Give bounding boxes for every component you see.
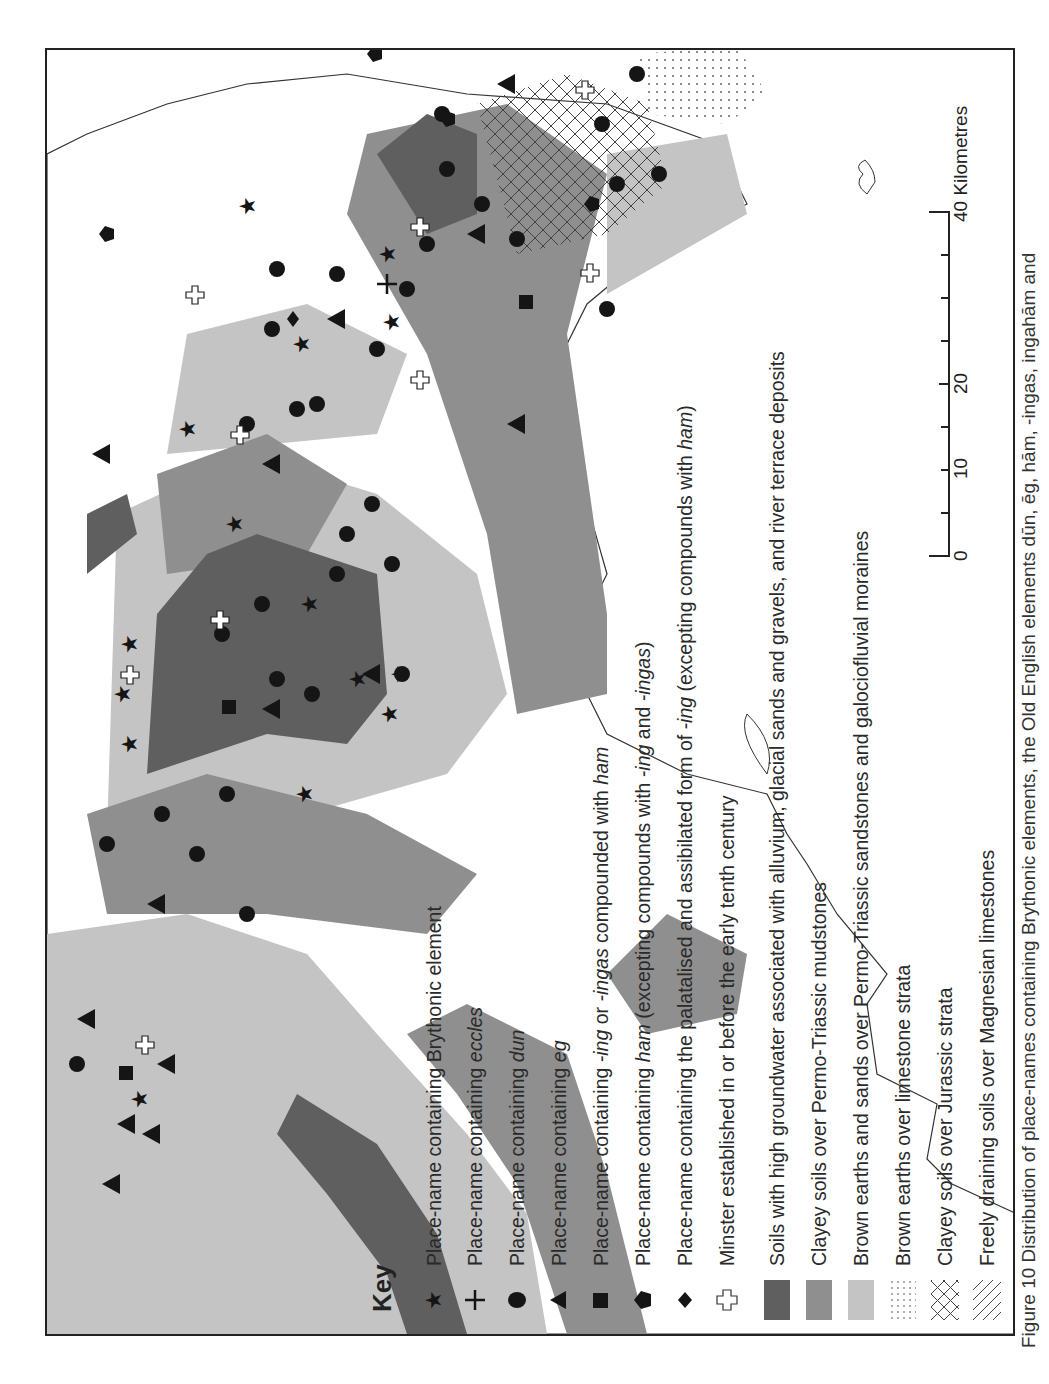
svg-text:★: ★: [297, 594, 322, 614]
svg-text:★: ★: [175, 419, 200, 439]
svg-text:★: ★: [289, 334, 314, 354]
dotted-swatch: [890, 1280, 916, 1320]
diagonal-hatch-swatch: [973, 1280, 1001, 1320]
svg-text:★: ★: [110, 684, 135, 704]
square-icon: [587, 1280, 615, 1320]
legend-item-ham: Place-name containing ham (excepting com…: [628, 642, 658, 1320]
legend-label: Minster established in or before the ear…: [716, 796, 739, 1266]
legend-item-magnesian-limestone: Freely draining soils over Magnesian lim…: [961, 850, 1013, 1320]
legend-item-eg: Place-name containing eg: [544, 1041, 574, 1321]
key-title: Key: [367, 1264, 398, 1312]
svg-text:★: ★: [345, 669, 370, 689]
svg-text:★: ★: [117, 734, 142, 754]
dark-grey-swatch: [764, 1280, 790, 1320]
map-frame: ★★★ ★★★ ★★★ ★★★ ★★★ ★: [45, 48, 1015, 1336]
legend-item-eccles: Place-name containing eccles: [460, 1007, 490, 1320]
legend-label: Soils with high groundwater associated w…: [766, 351, 789, 1266]
figure-caption: Figure 10 Distribution of place-names co…: [1018, 253, 1040, 1348]
legend-label: Place-name containing eccles: [464, 1007, 487, 1266]
legend-label: Place-name containing dun: [506, 1030, 529, 1266]
legend-item-palatalised-ing: Place-name containing the palatalised an…: [670, 405, 700, 1320]
legend-item-dun: Place-name containing dun: [502, 1030, 532, 1320]
svg-text:★: ★: [127, 1089, 152, 1109]
open-cross-icon: [713, 1280, 741, 1320]
legend-label: Clayey soils over Jurassic strata: [934, 987, 957, 1266]
legend-label: Brown earths and sands over Permo-Triass…: [850, 531, 873, 1266]
svg-text:★: ★: [292, 784, 317, 804]
scale-label-20: 20: [950, 373, 972, 394]
legend-label: Place-name containing -ing or -ingas com…: [590, 747, 613, 1266]
diamond-icon: [671, 1280, 699, 1320]
circle-icon: [503, 1280, 531, 1320]
legend-item-minster: Minster established in or before the ear…: [712, 796, 742, 1320]
legend-label: Place-name containing Brythonic element: [423, 906, 446, 1266]
mid-grey-swatch: [806, 1280, 832, 1320]
light-grey-swatch: [848, 1280, 874, 1320]
star-icon: ★: [420, 1280, 448, 1320]
legend-label: Brown earths over limestone strata: [892, 965, 915, 1266]
svg-text:★: ★: [235, 196, 260, 216]
svg-text:★: ★: [379, 312, 404, 332]
scale-label-0: 0: [950, 550, 972, 561]
legend-label: Place-name containing eg: [548, 1041, 571, 1267]
legend-item-ing-ham: Place-name containing -ing or -ingas com…: [586, 747, 616, 1320]
crosshatch-swatch: [931, 1280, 959, 1320]
island-outline: [858, 160, 875, 194]
figure-page: ★★★ ★★★ ★★★ ★★★ ★★★ ★: [0, 0, 1049, 1384]
svg-text:★: ★: [377, 704, 402, 724]
cross-icon: [461, 1280, 489, 1320]
scale-label-10: 10: [950, 458, 972, 479]
pentagon-icon: [629, 1280, 657, 1320]
limestone-dots: [637, 48, 767, 124]
svg-text:★: ★: [387, 664, 412, 684]
triangle-icon: [545, 1280, 573, 1320]
legend-label: Clayey soils over Permo-Triassic mudston…: [808, 882, 831, 1266]
legend-label: Freely draining soils over Magnesian lim…: [976, 850, 999, 1266]
legend-item-brythonic: ★ Place-name containing Brythonic elemen…: [419, 906, 449, 1320]
svg-text:★: ★: [222, 514, 247, 534]
svg-text:★: ★: [375, 244, 400, 264]
legend-label: Place-name containing the palatalised an…: [674, 405, 697, 1266]
legend-label: Place-name containing ham (excepting com…: [632, 642, 655, 1266]
scale-label-40-kilometres: 40 Kilometres: [950, 106, 972, 222]
svg-text:★: ★: [117, 634, 142, 654]
